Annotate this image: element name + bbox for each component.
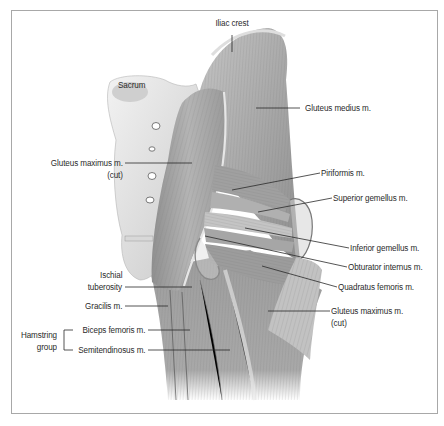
label-gluteus-maximus-cut-left: Gluteus maximus m. — [51, 158, 123, 169]
label-gluteus-maximus-cut-left-sub: (cut) — [107, 170, 123, 181]
label-iliac-crest: Iliac crest — [211, 18, 253, 29]
label-ischial-tuberosity-sub: tuberosity — [88, 282, 122, 293]
label-inferior-gemellus: Inferior gemellus m. — [350, 243, 419, 254]
label-gracilis: Gracilis m. — [85, 301, 122, 312]
label-biceps-femoris: Biceps femoris m. — [82, 325, 145, 336]
label-gluteus-medius: Gluteus medius m. — [305, 103, 371, 114]
label-gluteus-maximus-cut-right-sub: (cut) — [331, 318, 347, 329]
label-semitendinosus: Semitendinosus m. — [78, 345, 145, 356]
label-piriformis: Piriformis m. — [321, 168, 365, 179]
label-superior-gemellus: Superior gemellus m. — [333, 193, 408, 204]
label-hamstring-group: Hamstring — [21, 330, 57, 341]
label-gluteus-maximus-cut-right: Gluteus maximus m. — [331, 306, 403, 317]
label-ischial-tuberosity: Ischial — [100, 270, 122, 281]
label-obturator-internus: Obturator internus m. — [348, 262, 423, 273]
label-quadratus-femoris: Quadratus femoris m. — [338, 282, 414, 293]
anatomy-illustration — [0, 0, 444, 426]
label-sacrum: Sacrum — [118, 80, 145, 91]
label-hamstring-group-sub: group — [37, 342, 57, 353]
